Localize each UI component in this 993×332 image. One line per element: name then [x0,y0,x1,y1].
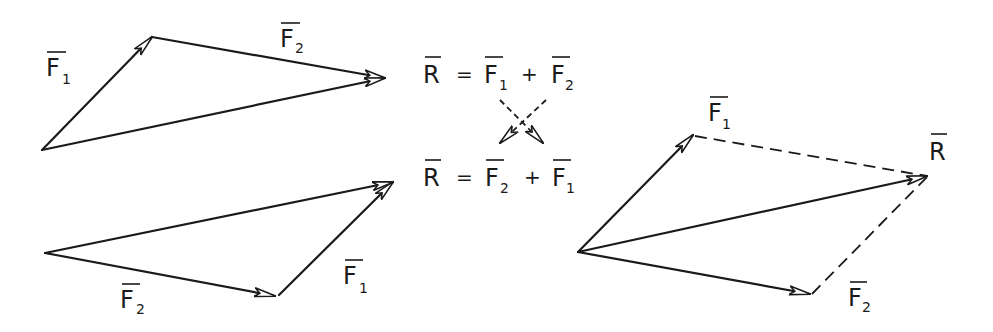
f2-label: F 2 [280,23,304,56]
svg-text:1: 1 [566,180,575,196]
resultant-vector-arrow [45,182,393,253]
svg-text:F: F [46,54,60,82]
f2-label: F 2 [848,282,871,315]
f1-label: F 1 [46,52,71,87]
f2-vector-arrow [152,37,385,78]
vector-addition-diagram: F 1 F 2 F 2 F 1 R = F 1 + F [0,0,993,332]
svg-text:F: F [708,99,722,127]
svg-text:F: F [848,284,862,312]
resultant-vector-arrow [578,176,927,252]
svg-text:1: 1 [722,116,731,132]
f1-label: F 1 [708,97,731,132]
svg-text:1: 1 [499,77,508,93]
svg-text:R: R [929,138,946,166]
svg-text:=: = [456,62,473,86]
f2-vector-arrow [578,252,810,294]
svg-text:F: F [280,25,294,53]
f1-vector-arrow [578,135,693,252]
svg-text:2: 2 [295,40,304,56]
svg-text:2: 2 [565,77,574,93]
resultant-label: R [929,134,947,166]
equation-bottom: R = F 2 + F 1 [423,160,575,196]
svg-text:F: F [120,286,134,314]
svg-text:2: 2 [862,299,871,315]
svg-text:R: R [423,61,440,89]
svg-text:=: = [456,165,473,189]
f2-label: F 2 [120,284,145,317]
dashed-f2-parallel [695,136,927,176]
svg-text:1: 1 [62,71,71,87]
svg-text:2: 2 [500,180,509,196]
f2-vector-arrow [45,253,275,296]
svg-text:1: 1 [359,280,368,296]
top-triangle: F 1 F 2 [42,23,385,150]
svg-text:F: F [552,164,566,192]
svg-text:F: F [485,164,499,192]
svg-text:+: + [521,62,538,86]
svg-text:2: 2 [136,301,145,317]
svg-text:F: F [551,61,565,89]
parallelogram: F 1 R F 2 [578,97,947,315]
svg-text:F: F [343,262,357,290]
bottom-triangle: F 2 F 1 [45,182,393,317]
equation-top: R = F 1 + F 2 [423,57,574,93]
svg-text:R: R [423,164,440,192]
swap-cross-arrows [500,100,546,143]
svg-text:+: + [524,165,541,189]
svg-text:F: F [484,61,498,89]
f1-vector-arrow [279,182,393,295]
f1-label: F 1 [343,260,368,296]
dashed-f1-parallel [812,177,927,294]
resultant-vector-arrow [42,78,385,150]
